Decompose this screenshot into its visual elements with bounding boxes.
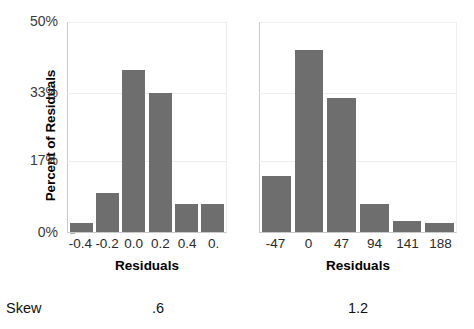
skew-value-right: 1.2 [318,300,398,316]
bar-slot [423,22,456,232]
left-x-tick-row: -0.4 -0.2 0.0 0.2 0.4 0. [67,236,227,256]
x-tick: 0.0 [120,236,147,256]
histogram-bar [425,223,454,232]
y-tick-33: 33% [8,93,58,94]
left-histogram-panel [67,22,227,233]
skew-value-left: .6 [118,300,198,316]
histogram-bar [327,98,356,232]
histogram-figure: Percent of Residuals 50% 33% 17% 0% -0.4… [0,0,474,329]
y-axis-title: Percent of Residuals [43,26,58,246]
y-tick-mark [70,233,75,234]
x-tick: -0.2 [94,236,121,256]
x-tick: 0 [292,236,325,256]
y-tick-50: 50% [8,22,58,23]
histogram-bar [96,193,119,232]
x-tick: 47 [325,236,358,256]
histogram-bar [70,223,93,232]
histogram-bar [295,50,324,232]
histogram-bar [360,204,389,232]
right-bars [260,22,456,232]
right-x-tick-row: -47 0 47 94 141 188 [259,236,457,256]
right-x-axis-title: Residuals [259,258,457,278]
bar-slot [147,22,173,232]
y-tick-17: 17% [8,161,58,162]
x-tick: 141 [391,236,424,256]
left-bars [68,22,226,232]
x-tick: -0.4 [67,236,94,256]
x-tick: -47 [259,236,292,256]
bar-slot [391,22,424,232]
right-histogram-panel [259,22,457,233]
bar-slot [358,22,391,232]
y-tick-0: 0% [8,233,58,234]
bar-slot [68,22,94,232]
histogram-bar [122,70,145,232]
left-x-axis-title: Residuals [67,258,227,278]
histogram-bar [262,176,291,232]
bar-slot [200,22,226,232]
bar-slot [121,22,147,232]
x-tick: 0. [200,236,227,256]
bar-slot [325,22,358,232]
bar-slot [94,22,120,232]
histogram-bar [201,204,224,232]
bar-slot [173,22,199,232]
x-tick: 0.2 [147,236,174,256]
x-tick: 188 [424,236,457,256]
skew-row: Skew .6 1.2 [0,300,474,326]
bar-slot [260,22,293,232]
skew-row-label: Skew [6,300,41,316]
histogram-bar [175,204,198,232]
histogram-bar [149,93,172,232]
x-tick: 94 [358,236,391,256]
histogram-bar [393,221,422,232]
bar-slot [293,22,326,232]
x-tick: 0.4 [174,236,201,256]
